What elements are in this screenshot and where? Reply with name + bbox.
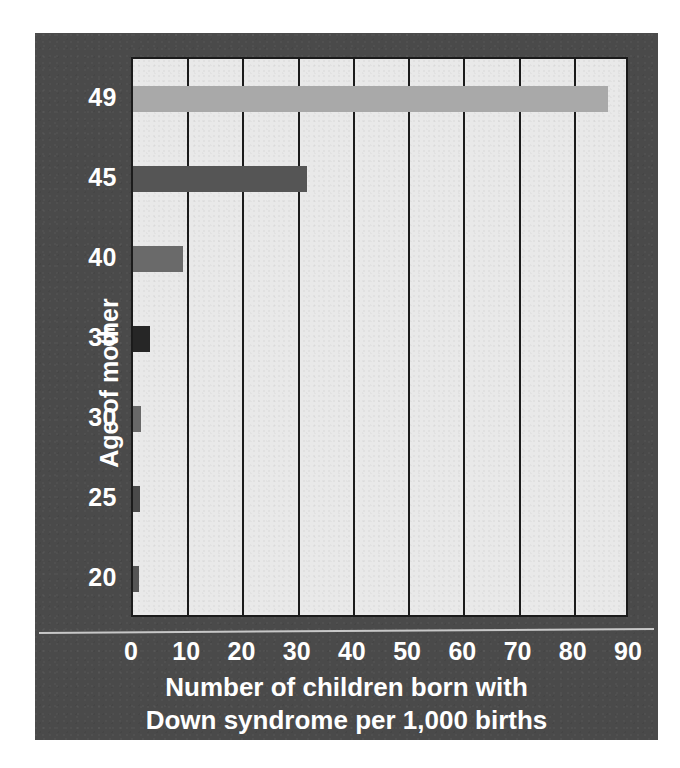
gridline-x-10: [187, 59, 189, 615]
bar-age-35: [133, 326, 150, 352]
x-tick-label-40: 40: [338, 637, 366, 666]
y-tick-label-45: 45: [88, 163, 117, 192]
x-axis-title: Number of children born with Down syndro…: [35, 671, 658, 738]
x-axis-title-line-2: Down syndrome per 1,000 births: [35, 704, 658, 737]
y-tick-label-49: 49: [88, 83, 117, 112]
gridline-x-40: [353, 59, 355, 615]
x-tick-label-30: 30: [283, 637, 311, 666]
plot-area: [131, 57, 628, 617]
gridline-x-30: [298, 59, 300, 615]
bar-age-49: [133, 86, 608, 112]
x-tick-label-50: 50: [393, 637, 421, 666]
x-tick-label-20: 20: [228, 637, 256, 666]
x-axis-title-line-1: Number of children born with: [35, 671, 658, 704]
y-tick-label-25: 25: [88, 483, 117, 512]
bar-age-30: [133, 406, 141, 432]
x-tick-label-0: 0: [124, 637, 138, 666]
x-tick-label-10: 10: [172, 637, 200, 666]
gridline-x-70: [519, 59, 521, 615]
x-tick-label-90: 90: [614, 637, 642, 666]
gridline-x-60: [463, 59, 465, 615]
x-axis-line: [39, 628, 654, 634]
x-tick-label-60: 60: [448, 637, 476, 666]
gridline-x-20: [242, 59, 244, 615]
chart-figure-panel: Age of mother Number of children born wi…: [35, 33, 658, 740]
x-tick-label-70: 70: [504, 637, 532, 666]
bar-age-25: [133, 486, 140, 512]
y-tick-label-35: 35: [88, 323, 117, 352]
y-tick-label-30: 30: [88, 403, 117, 432]
x-tick-label-80: 80: [559, 637, 587, 666]
gridline-x-50: [408, 59, 410, 615]
bar-age-45: [133, 166, 307, 192]
y-tick-label-20: 20: [88, 563, 117, 592]
bar-age-20: [133, 566, 139, 592]
y-tick-label-40: 40: [88, 243, 117, 272]
bar-age-40: [133, 246, 183, 272]
gridline-x-80: [574, 59, 576, 615]
